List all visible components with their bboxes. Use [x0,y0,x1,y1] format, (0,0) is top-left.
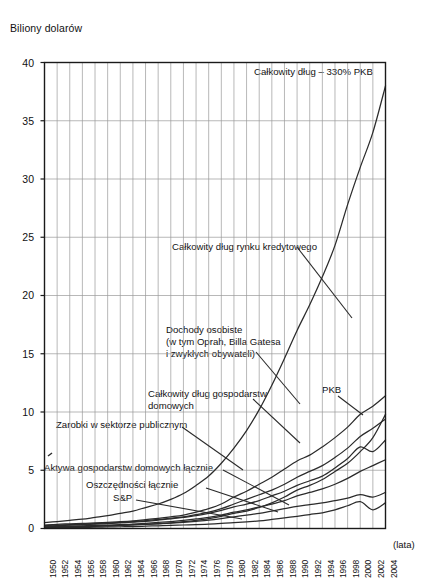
leader-line [256,352,300,404]
series-line [45,396,386,525]
chart-container: Biliony dolarów 40 35 30 25 20 15 10 5 0… [0,0,431,584]
data-curves [45,86,386,528]
leader-line [253,399,300,443]
series-line [45,440,386,526]
marker-tick [48,453,52,456]
leader-line [297,247,352,318]
plot-area [0,0,431,584]
